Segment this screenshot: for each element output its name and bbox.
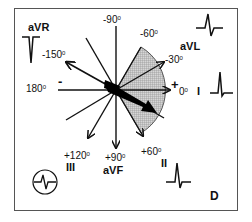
label-plus90: +900: [105, 153, 125, 163]
lead-label-avr: aVR: [28, 22, 49, 33]
plus-sign: +: [171, 79, 179, 91]
label-0: 00: [179, 87, 188, 97]
lead-label-ii: II: [161, 158, 167, 169]
label-minus90: -900: [103, 15, 121, 25]
axis-arrow-iii: [88, 90, 116, 138]
waveform-ii-icon: [166, 163, 191, 188]
lead-label-avl: aVL: [180, 41, 200, 52]
label-minus60: -600: [140, 29, 158, 39]
waveform-avr-icon: [22, 37, 40, 63]
minus-sign: -: [58, 76, 62, 88]
waveform-i-icon: [210, 72, 233, 96]
waveform-avl-icon: [196, 14, 223, 36]
lead-label-avf: aVF: [103, 165, 123, 176]
label-plus60: +600: [141, 147, 161, 157]
label-minus30: -300: [165, 55, 183, 65]
axis-line-150: [66, 90, 116, 120]
panel-label: D: [210, 191, 219, 202]
lead-label-iii: III: [66, 162, 75, 173]
label-plus120: +1200: [64, 151, 90, 161]
lead-label-i: I: [197, 86, 200, 97]
label-minus150: -1500: [42, 50, 65, 60]
label-180: 1800: [26, 84, 46, 94]
